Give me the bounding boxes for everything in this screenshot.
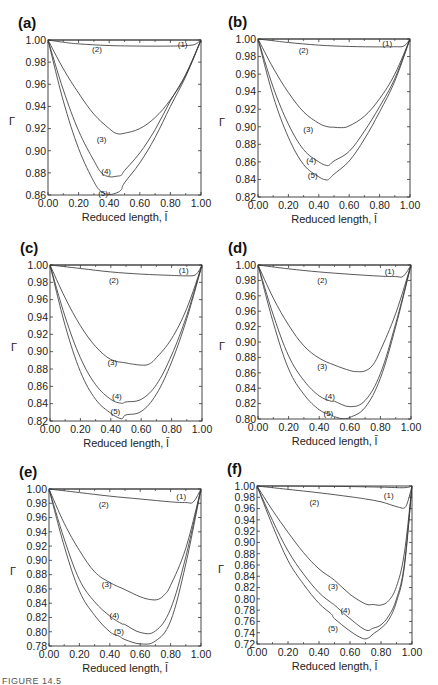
y-tick-label: 0.82	[235, 581, 256, 593]
curve-4	[49, 489, 201, 634]
y-tick-label: 0.84	[236, 173, 257, 185]
curve-label: (2)	[317, 276, 327, 285]
curve-label: (3)	[97, 135, 107, 144]
curve-label: (1)	[179, 266, 189, 275]
y-tick-label: 0.94	[28, 311, 49, 323]
x-tick-label: 0.00	[248, 199, 269, 211]
y-tick-label: 0.98	[235, 491, 256, 503]
y-tick-label: 0.92	[235, 525, 256, 537]
panel-label: (c)	[20, 239, 38, 256]
x-tick-label: 1.00	[402, 646, 423, 658]
panel-e: (e)1.000.980.960.940.920.900.880.860.840…	[0, 450, 219, 675]
panel-d: (d)1.000.980.960.960.920.900.880.860.840…	[219, 225, 438, 450]
y-tick-label: 1.00	[27, 483, 48, 495]
curve-4	[257, 486, 412, 630]
x-axis-label: Reduced length, l̄	[292, 435, 378, 447]
curve-label: (4)	[112, 392, 122, 401]
curve-label: (1)	[178, 40, 188, 49]
x-axis-label: Reduced length, l̄	[292, 660, 378, 672]
y-tick-label: 0.96	[26, 78, 47, 90]
x-tick-label: 0.20	[278, 199, 299, 211]
y-axis-label: Γ	[11, 341, 17, 353]
y-tick-label: 0.86	[235, 559, 256, 571]
x-tick-label: 0.40	[309, 199, 330, 211]
x-tick-label: 1.00	[192, 423, 213, 435]
x-tick-label: 0.60	[339, 199, 360, 211]
curve-label: (5)	[110, 407, 120, 416]
y-tick-label: 0.88	[236, 138, 257, 150]
curve-5	[50, 265, 202, 419]
y-tick-label: 0.98	[27, 497, 48, 509]
y-tick-label: 1.00	[236, 259, 257, 271]
curve-4	[258, 265, 411, 407]
y-tick-label: 1.00	[28, 259, 49, 271]
y-tick-label: 0.92	[27, 540, 48, 552]
panel-label: (e)	[19, 463, 37, 480]
y-tick-label: 0.96	[236, 68, 257, 80]
x-tick-label: 0.80	[161, 423, 182, 435]
x-tick-label: 0.80	[369, 199, 390, 211]
x-tick-label: 1.00	[191, 197, 212, 209]
y-tick-label: 0.86	[236, 156, 257, 168]
y-tick-label: 0.86	[236, 367, 257, 379]
chart-a: (a)1.000.980.960.940.920.900.880.860.000…	[0, 0, 219, 225]
x-tick-label: 0.60	[130, 197, 151, 209]
panel-a: (a)1.000.980.960.940.920.900.880.860.000…	[0, 0, 219, 225]
curve-label: (5)	[328, 624, 338, 633]
y-axis-label: Γ	[219, 116, 225, 128]
curve-label: (3)	[317, 362, 327, 371]
curve-label: (2)	[109, 276, 119, 285]
x-tick-label: 0.20	[278, 646, 299, 658]
curve-5	[258, 39, 410, 180]
chart-e: (e)1.000.980.960.940.920.900.880.860.840…	[0, 450, 219, 675]
y-tick-label: 0.90	[235, 536, 256, 548]
y-tick-label: 0.84	[27, 597, 48, 609]
curve-label: (1)	[176, 492, 186, 501]
y-tick-label: 0.78	[235, 604, 256, 616]
y-tick-label: 0.94	[27, 526, 48, 538]
x-tick-label: 0.60	[340, 421, 361, 433]
y-tick-label: 1.00	[235, 480, 256, 492]
curve-label: (5)	[114, 627, 124, 636]
y-tick-label: 0.94	[26, 100, 47, 112]
panel-label: (f)	[227, 460, 242, 477]
y-tick-label: 0.94	[235, 514, 256, 526]
y-tick-label: 0.86	[27, 583, 48, 595]
y-tick-label: 0.88	[236, 351, 257, 363]
y-tick-label: 0.82	[27, 611, 48, 623]
y-tick-label: 1.00	[26, 34, 47, 46]
x-axis-label: Reduced length, l̄	[82, 662, 168, 674]
x-tick-label: 0.20	[69, 648, 90, 660]
y-tick-label: 0.88	[26, 167, 47, 179]
x-axis-label: Reduced length, l̄	[82, 211, 168, 223]
y-axis-label: Γ	[10, 565, 16, 577]
y-axis-label: Γ	[219, 340, 225, 352]
curve-label: (2)	[99, 500, 109, 509]
x-tick-label: 1.00	[401, 421, 422, 433]
y-tick-label: 0.92	[28, 328, 49, 340]
x-tick-label: 1.00	[191, 648, 212, 660]
y-tick-label: 0.88	[235, 548, 256, 560]
y-tick-label: 0.88	[28, 363, 49, 375]
x-tick-label: 0.00	[39, 648, 60, 660]
y-tick-label: 1.00	[236, 33, 257, 45]
curve-label: (4)	[340, 606, 350, 615]
curve-label: (1)	[385, 267, 395, 276]
panel-b: (b)1.000.980.960.940.920.900.880.860.840…	[219, 0, 438, 225]
x-tick-label: 0.60	[340, 646, 361, 658]
y-tick-label: 0.96	[235, 502, 256, 514]
x-tick-label: 0.00	[248, 421, 269, 433]
y-tick-label: 0.98	[26, 56, 47, 68]
curve-3	[258, 39, 410, 128]
x-tick-label: 0.60	[130, 648, 151, 660]
x-tick-label: 0.60	[131, 423, 152, 435]
x-tick-label: 0.80	[160, 197, 181, 209]
x-tick-label: 0.40	[100, 648, 121, 660]
curve-label: (4)	[306, 156, 316, 165]
curve-3	[49, 489, 201, 600]
y-tick-label: 0.74	[235, 627, 256, 639]
plot-frame	[48, 40, 201, 195]
x-tick-label: 0.40	[309, 421, 330, 433]
panel-f: (f)1.000.980.960.940.920.900.880.860.840…	[219, 450, 438, 675]
y-tick-label: 0.86	[28, 380, 49, 392]
